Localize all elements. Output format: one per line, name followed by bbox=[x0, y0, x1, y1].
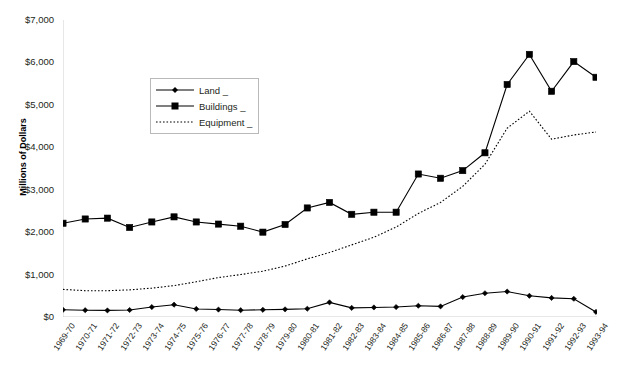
legend-item: Buildings _ bbox=[155, 98, 252, 114]
legend-item: Land _ bbox=[155, 82, 252, 98]
series-marker bbox=[238, 223, 244, 229]
series-marker bbox=[282, 307, 287, 312]
series-marker bbox=[593, 74, 597, 80]
legend-item-label: Buildings _ bbox=[195, 101, 245, 112]
series-marker bbox=[437, 175, 443, 181]
series-marker bbox=[149, 304, 154, 309]
series-marker bbox=[526, 51, 532, 57]
series-marker bbox=[260, 307, 265, 312]
series-marker bbox=[349, 305, 354, 310]
plot-area bbox=[63, 20, 597, 317]
series-marker bbox=[260, 229, 266, 235]
x-axis-tick-labels: 1969-701970-711971-721972-731973-741974-… bbox=[63, 317, 597, 365]
series-marker bbox=[127, 307, 132, 312]
series-marker bbox=[104, 215, 110, 221]
series-marker bbox=[505, 289, 510, 294]
series-marker bbox=[171, 302, 176, 307]
series-marker bbox=[82, 216, 88, 222]
series-marker bbox=[304, 205, 310, 211]
series-marker bbox=[327, 300, 332, 305]
legend-item-label: Land _ bbox=[195, 85, 228, 96]
series-marker bbox=[504, 81, 510, 87]
chart-legend: Land _Buildings _Equipment _ bbox=[150, 78, 259, 134]
series-marker bbox=[416, 303, 421, 308]
series-marker bbox=[215, 221, 221, 227]
series-marker bbox=[548, 88, 554, 94]
legend-item: Equipment _ bbox=[155, 114, 252, 130]
series-marker bbox=[349, 211, 355, 217]
series-marker bbox=[460, 294, 465, 299]
series-marker bbox=[171, 214, 177, 220]
legend-item-label: Equipment _ bbox=[195, 117, 252, 128]
series-marker bbox=[326, 199, 332, 205]
series-marker bbox=[282, 221, 288, 227]
series-marker bbox=[549, 295, 554, 300]
series-marker bbox=[127, 224, 133, 230]
series-marker bbox=[83, 308, 88, 313]
series-marker bbox=[482, 150, 488, 156]
series-marker bbox=[527, 293, 532, 298]
series-marker bbox=[105, 308, 110, 313]
series-marker bbox=[193, 219, 199, 225]
series-marker bbox=[371, 209, 377, 215]
series-marker bbox=[438, 304, 443, 309]
y-axis-tick-label: $7,000 bbox=[10, 14, 54, 25]
legend-swatch-diamond bbox=[155, 83, 195, 97]
series-marker bbox=[238, 308, 243, 313]
y-axis-tick-label: $4,000 bbox=[10, 141, 54, 152]
series-marker bbox=[63, 307, 66, 312]
series-marker bbox=[216, 307, 221, 312]
series-marker bbox=[460, 168, 466, 174]
series-marker bbox=[149, 219, 155, 225]
y-axis-tick-label: $6,000 bbox=[10, 56, 54, 67]
y-axis-tick-label: $1,000 bbox=[10, 269, 54, 280]
y-axis-tick-label: $3,000 bbox=[10, 184, 54, 195]
series-marker bbox=[305, 306, 310, 311]
series-marker bbox=[482, 291, 487, 296]
legend-swatch-dotted-line bbox=[155, 115, 195, 129]
series-marker bbox=[571, 296, 576, 301]
y-axis-tick-label: $0 bbox=[10, 311, 54, 322]
y-axis-tick-label: $2,000 bbox=[10, 226, 54, 237]
y-axis-tick-label: $5,000 bbox=[10, 99, 54, 110]
series-marker bbox=[394, 304, 399, 309]
legend-swatch-square bbox=[155, 99, 195, 113]
series-marker bbox=[571, 58, 577, 64]
series-marker bbox=[393, 209, 399, 215]
series-marker bbox=[371, 305, 376, 310]
y-axis-tick-labels: $0$1,000$2,000$3,000$4,000$5,000$6,000$7… bbox=[8, 0, 54, 365]
series-marker bbox=[63, 220, 66, 226]
series-marker bbox=[194, 306, 199, 311]
chart-plot-svg bbox=[63, 20, 597, 317]
series-marker bbox=[415, 171, 421, 177]
chart-container: Millions of Dollars $0$1,000$2,000$3,000… bbox=[0, 0, 624, 365]
